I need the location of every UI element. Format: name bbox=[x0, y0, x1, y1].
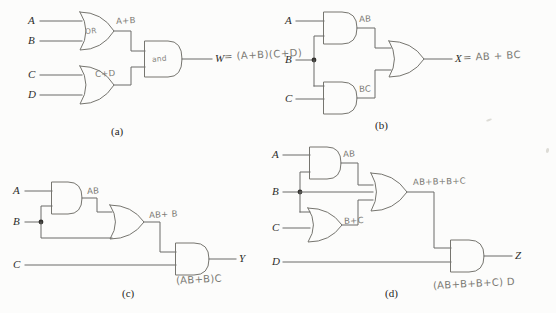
circuit-d-and1-output-label: AB bbox=[343, 149, 356, 158]
circuit-a-or1-inscription: OR bbox=[85, 27, 97, 35]
circuit-d-input-c-label: C bbox=[272, 222, 279, 233]
circuit-b-and1-output-label: AB bbox=[359, 14, 372, 23]
circuit-d-wires bbox=[283, 147, 512, 272]
circuit-b-output-name: X bbox=[455, 53, 462, 64]
circuit-b-wires bbox=[296, 12, 452, 114]
circuit-c-input-a-label: A bbox=[13, 185, 20, 196]
circuit-c-output-name: Y bbox=[239, 253, 245, 264]
circuit-c-input-b-label: B bbox=[13, 216, 20, 227]
circuit-d-input-a-label: A bbox=[272, 149, 279, 160]
circuit-b-input-b-label: B bbox=[285, 54, 292, 65]
circuit-a-and-inscription: and bbox=[152, 55, 168, 64]
circuit-d-or1-output-label: B+C bbox=[344, 216, 364, 226]
circuit-d-or2-output-label: AB+B+B+C bbox=[413, 177, 466, 187]
circuit-a-caption: (a) bbox=[111, 126, 123, 137]
circuit-c-caption: (c) bbox=[122, 288, 134, 299]
circuit-b-input-c-label: C bbox=[285, 93, 292, 104]
circuit-c-and1-output-label: AB bbox=[87, 186, 100, 195]
circuit-a-or2-output-label: C+D bbox=[95, 69, 116, 79]
circuit-d-output-name: Z bbox=[515, 250, 521, 261]
circuit-d-input-b-label: B bbox=[272, 186, 279, 197]
circuit-c-wires bbox=[25, 182, 236, 275]
circuit-d-caption: (d) bbox=[385, 288, 398, 299]
circuit-a-output-name: W bbox=[215, 53, 224, 64]
circuit-a-input-d-label: D bbox=[28, 89, 36, 100]
circuit-c-input-c-label: C bbox=[13, 259, 20, 270]
circuit-a-input-a-label: A bbox=[28, 15, 35, 26]
circuit-c-or1-output-label: AB+ B bbox=[149, 209, 178, 219]
circuit-d-input-d-label: D bbox=[272, 256, 280, 267]
circuit-a-input-c-label: C bbox=[28, 69, 35, 80]
circuit-a-wires bbox=[40, 12, 212, 104]
circuit-b-input-a-label: A bbox=[285, 15, 292, 26]
figure-canvas: A B C D OR A+B C+D and W = (A+B)(C+D) (a… bbox=[0, 0, 556, 313]
circuit-b-and2-output-label: BC bbox=[359, 84, 372, 93]
circuit-b-caption: (b) bbox=[375, 120, 388, 131]
circuit-a-or1-output-label: A+B bbox=[116, 16, 136, 26]
circuit-a-input-b-label: B bbox=[28, 35, 35, 46]
